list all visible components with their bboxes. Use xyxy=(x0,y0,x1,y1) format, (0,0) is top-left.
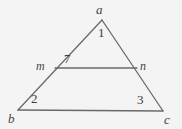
vertex-label-b: b xyxy=(8,112,15,125)
geometry-diagram: a b c m n 1 7 2 3 xyxy=(0,0,182,129)
angle-label-3: 3 xyxy=(137,93,144,106)
angle-label-7: 7 xyxy=(64,52,71,65)
vertex-label-c: c xyxy=(164,113,170,126)
triangle-svg-canvas xyxy=(0,0,182,129)
angle-label-2: 2 xyxy=(31,92,38,105)
point-label-m: m xyxy=(36,60,45,72)
segment-bc xyxy=(18,110,163,111)
segment-ac xyxy=(102,20,163,111)
angle-label-1: 1 xyxy=(98,26,105,39)
point-label-n: n xyxy=(140,60,146,72)
vertex-label-a: a xyxy=(96,3,103,16)
